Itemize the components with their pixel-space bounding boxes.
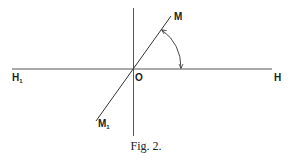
label-h: H bbox=[274, 72, 281, 83]
label-m: M bbox=[174, 11, 182, 22]
figure-caption: Fig. 2. bbox=[130, 139, 161, 153]
label-m1-base: M bbox=[98, 118, 106, 129]
label-origin-o: O bbox=[135, 72, 143, 83]
label-m1-sub: 1 bbox=[106, 124, 110, 130]
label-m1: M1 bbox=[98, 118, 110, 130]
label-h1: H1 bbox=[12, 72, 23, 84]
figure-diagram: M O H H1 M1 Fig. 2. bbox=[0, 0, 291, 167]
label-h1-sub: 1 bbox=[19, 78, 23, 84]
label-h1-base: H bbox=[12, 72, 19, 83]
angle-arc-arrow bbox=[162, 30, 181, 68]
